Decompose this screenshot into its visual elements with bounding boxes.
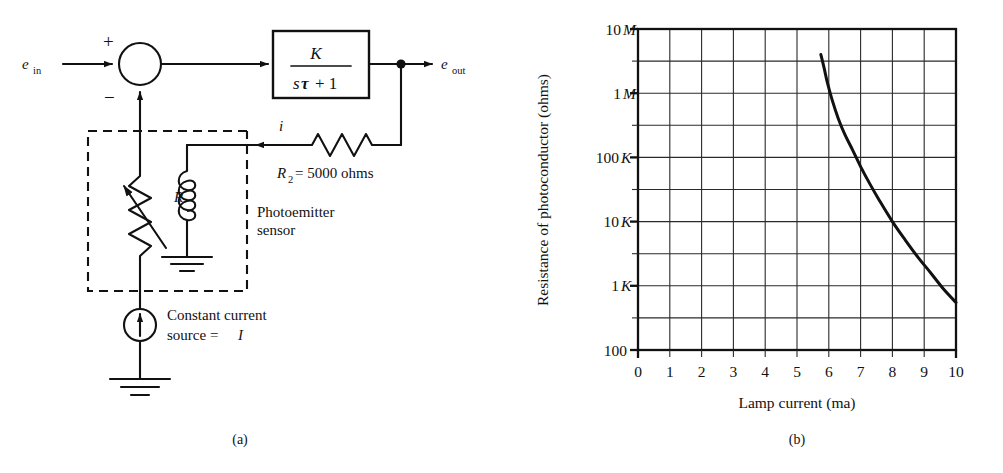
sensor-label-line2: sensor: [257, 222, 295, 238]
panel-b-caption: (b): [789, 432, 806, 448]
resistor-icon: [287, 134, 401, 156]
transfer-denominator-rest: + 1: [315, 74, 337, 93]
panel-a-caption: (a): [232, 432, 248, 448]
input-signal-subscript: in: [33, 65, 42, 76]
chart-xtick-9: 9: [920, 363, 928, 380]
chart-ytick-10K-unit: K: [620, 213, 632, 230]
r2-value-label: R 2 = 5000 ohms: [276, 165, 374, 185]
chart-ytick-1M-unit: M: [622, 85, 637, 102]
ground-icon: [110, 379, 170, 395]
chart-ytick-1M-num: 1: [613, 85, 621, 102]
transfer-numerator-label: K: [309, 44, 323, 63]
chart-xtick-6: 6: [825, 363, 833, 380]
current-label: i: [279, 118, 283, 134]
input-signal-label: e in: [22, 56, 42, 76]
minus-sign-label: −: [104, 87, 115, 108]
chart-x-ticks: [638, 350, 956, 358]
chart-xtick-4: 4: [761, 363, 769, 380]
chart-data-curve: [821, 55, 956, 303]
chart-ytick-10K: 10 K: [604, 213, 633, 230]
chart-ytick-10K-num: 10: [604, 213, 620, 230]
chart-xtick-8: 8: [889, 363, 897, 380]
chart-ytick-1K-num: 1: [611, 277, 619, 294]
chart-ytick-10M-unit: M: [622, 21, 637, 38]
chart-ytick-100K-unit: K: [620, 149, 632, 166]
chart-xtick-1: 1: [666, 363, 674, 380]
chart-xtick-3: 3: [730, 363, 738, 380]
chart-ytick-10M-num: 10: [606, 21, 622, 38]
r2-symbol: R: [276, 165, 286, 181]
plus-sign-label: +: [103, 31, 114, 52]
output-signal-label: e out: [441, 56, 466, 76]
chart-xlabel: Lamp current (ma): [738, 394, 855, 412]
sensor-ground-icon: [162, 257, 212, 271]
chart-ytick-1K-unit: K: [620, 277, 632, 294]
transfer-denominator-group: s τ + 1: [293, 74, 337, 93]
chart-ytick-100K: 100 K: [596, 149, 632, 166]
chart-y-ticks: [630, 29, 638, 350]
figure-root: e in + − K s τ + 1 e out: [0, 0, 1003, 473]
chart-ytick-10M: 10 M: [606, 21, 638, 38]
output-signal-symbol: e: [441, 56, 448, 72]
input-signal-symbol: e: [22, 56, 29, 72]
source-current-symbol: I: [237, 327, 244, 343]
output-signal-subscript: out: [452, 65, 466, 76]
r2-value-text: = 5000 ohms: [295, 165, 374, 181]
chart-xtick-7: 7: [857, 363, 865, 380]
source-label-line2-text: source =: [167, 327, 218, 343]
sensor-label-line1: Photoemitter: [257, 204, 335, 220]
chart-ytick-100-num: 100: [604, 342, 628, 359]
chart-ytick-1M: 1 M: [613, 85, 637, 102]
chart-xtick-10: 10: [948, 363, 964, 380]
sensor-enclosure-dashed-box: [88, 131, 247, 291]
source-label-line1: Constant current: [167, 307, 267, 323]
r2-subscript: 2: [288, 174, 293, 185]
chart-ytick-100K-num: 100: [596, 149, 620, 166]
photoemitter-coil-icon: [179, 171, 196, 256]
variable-resistor-icon: [129, 170, 151, 291]
summing-junction-icon: [119, 43, 161, 85]
chart-ytick-100: 100: [604, 342, 628, 359]
chart-ylabel: Resistance of photoconductor (ohms): [534, 74, 552, 306]
chart-ytick-1K: 1 K: [611, 277, 632, 294]
source-label-line2: source = I: [167, 327, 244, 343]
chart-xtick-2: 2: [698, 363, 706, 380]
chart-xtick-5: 5: [793, 363, 801, 380]
chart-xtick-0: 0: [634, 363, 642, 380]
transfer-denominator-s: s: [293, 74, 300, 93]
figure-svg: e in + − K s τ + 1 e out: [0, 0, 1003, 473]
transfer-denominator-tau: τ: [301, 74, 309, 93]
